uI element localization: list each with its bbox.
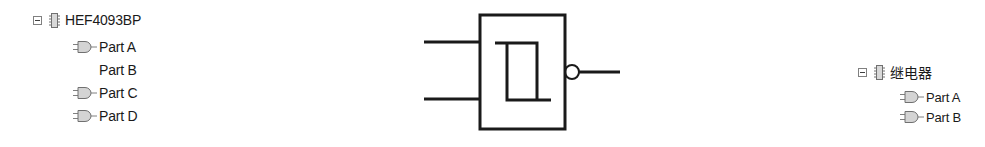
gate-part-icon	[900, 111, 924, 123]
gate-part-icon	[73, 41, 97, 53]
tree-node-hef4093bp[interactable]: HEF4093BP	[33, 10, 141, 30]
tree-item-part-b[interactable]: Part B	[900, 107, 961, 127]
gate-part-icon	[900, 91, 924, 103]
gate-part-icon	[73, 110, 97, 122]
tree-item-part-a[interactable]: Part A	[73, 37, 136, 57]
tree-item-label: Part A	[99, 39, 136, 55]
ic-chip-icon	[874, 65, 885, 80]
tree-item-label: Part B	[926, 110, 961, 125]
tree-item-label: Part C	[99, 85, 137, 101]
collapse-icon[interactable]	[33, 16, 42, 25]
schmitt-nand-gate-symbol	[420, 8, 630, 133]
tree-item-label: Part A	[926, 90, 960, 105]
tree-item-part-d[interactable]: Part D	[73, 106, 137, 126]
tree-node-label: HEF4093BP	[65, 12, 141, 28]
tree-item-part-c[interactable]: Part C	[73, 83, 137, 103]
tree-item-label: Part B	[99, 62, 137, 78]
tree-node-relay[interactable]: 继电器	[858, 62, 931, 82]
collapse-icon[interactable]	[858, 68, 867, 77]
tree-item-part-a[interactable]: Part A	[900, 87, 960, 107]
gate-part-icon	[73, 87, 97, 99]
tree-node-label: 继电器	[890, 62, 931, 82]
ic-chip-icon	[49, 13, 60, 28]
tree-item-part-b[interactable]: Part B	[99, 60, 137, 80]
tree-item-label: Part D	[99, 108, 137, 124]
